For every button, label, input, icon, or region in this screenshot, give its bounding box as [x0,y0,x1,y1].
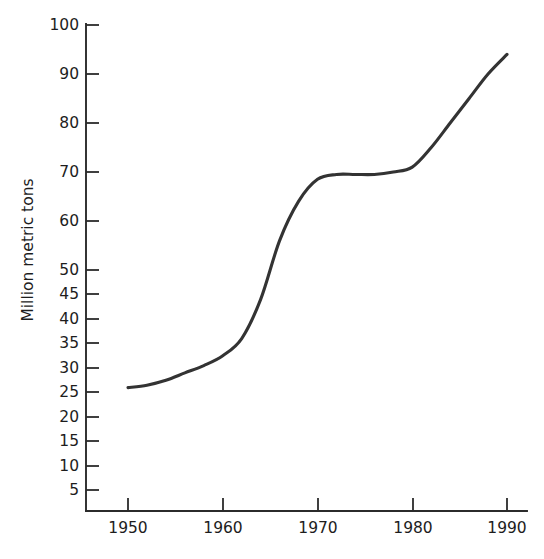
y-axis-title: Million metric tons [19,178,37,321]
x-tick-label: 1960 [203,519,242,537]
data-series-line [128,54,507,387]
x-tick-label: 1980 [393,519,432,537]
y-tick-label: 40 [59,310,79,328]
y-tick-label: 45 [59,285,79,303]
y-tick-label: 5 [69,481,79,499]
y-tick-labels: 100 90 80 70 60 50 45 40 35 30 25 20 15 … [49,16,79,499]
y-tick-label: 80 [59,114,79,132]
y-tick-label: 70 [59,163,79,181]
x-tick-label: 1970 [298,519,337,537]
y-tick-label: 10 [59,457,79,475]
line-chart: 100 90 80 70 60 50 45 40 35 30 25 20 15 … [0,0,544,559]
x-tick-label: 1950 [108,519,147,537]
y-tick-label: 100 [49,16,79,34]
y-tick-label: 30 [59,359,79,377]
y-tick-label: 20 [59,408,79,426]
y-tick-label: 50 [59,261,79,279]
y-tick-label: 60 [59,212,79,230]
y-tick-label: 25 [59,383,79,401]
y-tick-label: 15 [59,432,79,450]
y-tick-label: 35 [59,334,79,352]
chart-figure: 100 90 80 70 60 50 45 40 35 30 25 20 15 … [0,0,544,559]
x-tick-marks [128,498,507,511]
y-tick-label: 90 [59,65,79,83]
y-tick-marks [86,25,99,490]
x-tick-label: 1990 [487,519,526,537]
x-tick-labels: 1950 1960 1970 1980 1990 [108,519,526,537]
